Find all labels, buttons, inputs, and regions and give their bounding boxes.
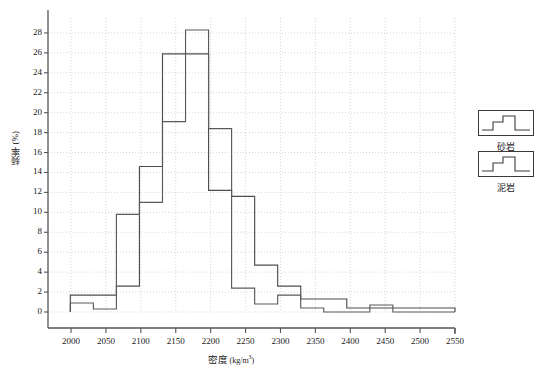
step-line-swatch-icon [479,111,533,135]
y-axis-tick-label: 2 [18,286,42,296]
y-axis-tick-label: 0 [18,306,42,316]
y-axis-tick-label: 18 [18,127,42,137]
legend-swatch-2 [478,151,534,177]
y-axis-tick-label: 4 [18,266,42,276]
y-axis-tick-label: 6 [18,246,42,256]
y-axis-tick-label: 8 [18,226,42,236]
series-step-line-1 [70,54,455,312]
gridlines [48,18,455,312]
histogram-figure: 0246810121416182022242628200020502100215… [0,0,543,374]
y-axis-tick-label: 10 [18,206,42,216]
step-glyph [482,116,530,130]
y-axis-title: 频率 (%) [8,131,21,165]
y-axis-tick-label: 22 [18,87,42,97]
x-axis-title: 密度 (kg/m3) [208,352,255,366]
x-axis-tick-label: 2550 [435,336,475,346]
series-step-line-2 [70,30,455,312]
y-axis-tick-label: 12 [18,186,42,196]
y-axis-tick-label: 26 [18,47,42,57]
y-axis-tick-label: 24 [18,67,42,77]
x-axis-title-unit: (kg/m3) [228,356,255,365]
step-glyph [482,157,530,171]
legend-swatch-1 [478,110,534,136]
y-axis-tick-label: 14 [18,166,42,176]
y-axis-tick-label: 20 [18,107,42,117]
legend-label-2: 泥岩 [476,181,536,194]
chart-canvas [0,0,543,374]
step-line-swatch-icon [479,152,533,176]
y-axis-tick-label: 28 [18,27,42,37]
y-axis-tick-label: 16 [18,147,42,157]
x-axis-title-text: 密度 [208,355,228,365]
